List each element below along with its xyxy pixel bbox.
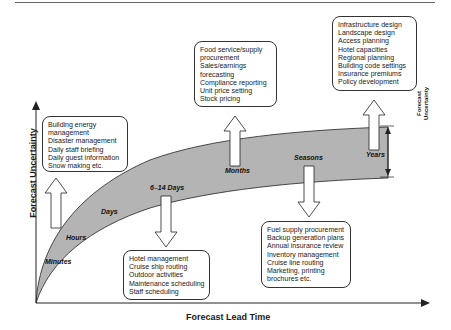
applications-box-6-14-days: Hotel management Cruise ship routing Out… [123,250,210,300]
scale-days: Days [101,208,118,215]
applications-box-months: Food service/supply procurement Sales/ea… [194,41,277,107]
scale-years: Years [366,151,385,158]
x-axis-arrowhead [421,299,430,307]
applications-box-hours: Building energy management Disaster mana… [42,116,128,172]
scale-minutes: Minutes [45,258,71,265]
scale-6-14-days: 6–14 Days [150,184,184,191]
scale-seasons: Seasons [294,154,323,161]
y-axis-arrowhead [32,101,40,110]
y-axis-label: Forecast Uncertainty [28,118,38,228]
scale-months: Months [225,167,250,174]
applications-box-seasons: Fuel supply procurement Backup generatio… [261,221,351,288]
forecast-uncertainty-band-label: Forecast Uncertainty [416,87,430,120]
scale-hours: Hours [66,234,86,241]
x-axis-label: Forecast Lead Time [186,312,270,322]
applications-box-years: Infrastructure design Landscape design A… [332,16,417,91]
up-arrow-hours [45,178,67,228]
